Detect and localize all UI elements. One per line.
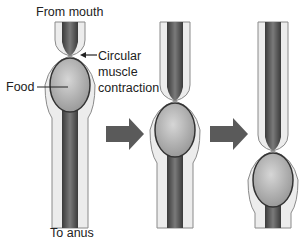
right-arrow-icon bbox=[210, 118, 248, 150]
pointer-arrow-icon bbox=[80, 52, 86, 58]
stage-2-tube bbox=[150, 22, 200, 228]
label-to-anus: To anus bbox=[50, 226, 94, 240]
food-bolus bbox=[50, 58, 90, 112]
right-arrow-icon bbox=[106, 118, 144, 150]
food-bolus bbox=[253, 153, 293, 207]
label-from-mouth: From mouth bbox=[36, 5, 103, 19]
label-contraction-1: Circular bbox=[98, 49, 141, 63]
stage-3-tube bbox=[248, 22, 298, 228]
label-contraction-2: muscle bbox=[98, 65, 138, 79]
stage-1-tube bbox=[45, 22, 95, 228]
food-bolus bbox=[155, 103, 195, 157]
peristalsis-diagram bbox=[0, 0, 301, 242]
label-food: Food bbox=[6, 80, 35, 94]
label-contraction-3: contraction bbox=[98, 81, 159, 95]
